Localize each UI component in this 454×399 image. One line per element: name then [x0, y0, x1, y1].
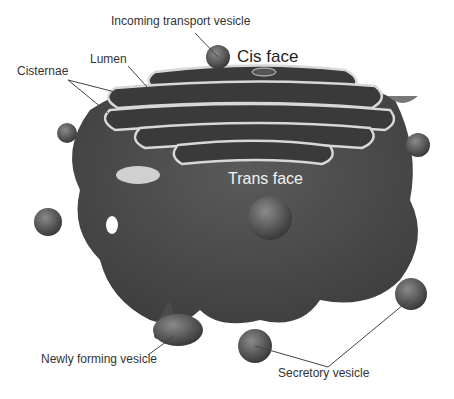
label-cis-face: Cis face: [237, 47, 298, 67]
label-cisternae: Cisternae: [17, 64, 68, 78]
label-incoming-vesicle: Incoming transport vesicle: [111, 14, 250, 28]
golgi-illustration: [0, 0, 454, 399]
label-newly-forming-vesicle: Newly forming vesicle: [41, 352, 157, 366]
label-trans-face: Trans face: [228, 170, 303, 188]
label-lumen: Lumen: [90, 52, 127, 66]
label-secretory-vesicle: Secretory vesicle: [278, 366, 369, 380]
golgi-diagram: Incoming transport vesicle Cis face Lume…: [0, 0, 454, 399]
